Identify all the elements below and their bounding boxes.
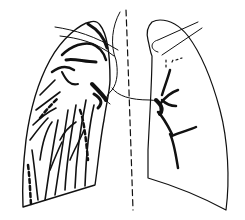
mediastinum-right [112, 88, 160, 104]
midline [126, 10, 133, 210]
clavicle-left [55, 27, 118, 50]
clavicle-right [152, 22, 202, 55]
lung-illustration [0, 0, 245, 220]
lung-diagram [0, 0, 245, 220]
